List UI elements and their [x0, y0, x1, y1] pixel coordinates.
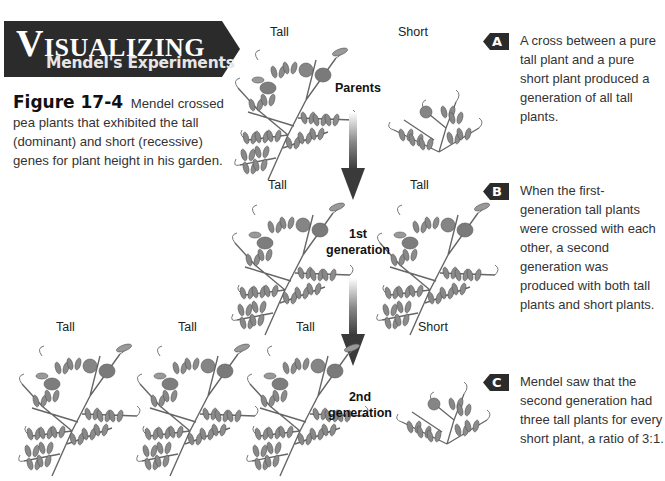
- figure-label: Figure 17-4: [13, 92, 123, 112]
- note-c-text: Mendel saw that the second generation ha…: [520, 372, 665, 448]
- note-a-text: A cross between a pure tall plant and a …: [520, 31, 665, 126]
- badge-a: A: [483, 33, 509, 50]
- badge-b-letter: B: [492, 183, 502, 200]
- tall-plant-illustration: [12, 336, 142, 481]
- note-b-text: When the first-generation tall plants we…: [520, 181, 665, 314]
- arrow-down-icon: [338, 112, 368, 202]
- banner-title-cap: V: [16, 22, 44, 64]
- plant-label-f2-short: Short: [418, 320, 448, 334]
- plant-label-parent-short: Short: [398, 25, 428, 39]
- plant-label-parent-tall: Tall: [270, 25, 289, 39]
- second-generation-label-line1: 2nd: [325, 389, 395, 405]
- badge-b: B: [483, 183, 509, 200]
- second-generation-label: 2ndgeneration: [325, 389, 395, 421]
- plant-label-f2-tall-1: Tall: [56, 320, 75, 334]
- tall-plant-illustration: [225, 195, 355, 345]
- plant-label-f2-tall-2: Tall: [178, 320, 197, 334]
- second-generation-label-line2: generation: [325, 405, 395, 421]
- badge-a-letter: A: [492, 33, 502, 50]
- figure-caption: Figure 17-4 Mendel crossed pea plants th…: [13, 93, 233, 170]
- first-generation-label: 1stgeneration: [323, 226, 393, 258]
- first-generation-label-line1: 1st: [323, 226, 393, 242]
- short-plant-illustration: [392, 372, 492, 452]
- parents-label: Parents: [335, 80, 381, 96]
- plant-label-f1-tall-1: Tall: [268, 178, 287, 192]
- badge-c-letter: C: [492, 374, 502, 391]
- banner-subtitle: Mendel's Experiments: [46, 54, 235, 72]
- title-banner: VISUALIZING Mendel's Experiments: [4, 21, 240, 77]
- plant-label-f1-tall-2: Tall: [410, 178, 429, 192]
- plant-label-f2-tall-3: Tall: [296, 320, 315, 334]
- first-generation-label-line2: generation: [323, 242, 393, 258]
- badge-c: C: [483, 374, 509, 391]
- short-plant-illustration: [384, 80, 484, 160]
